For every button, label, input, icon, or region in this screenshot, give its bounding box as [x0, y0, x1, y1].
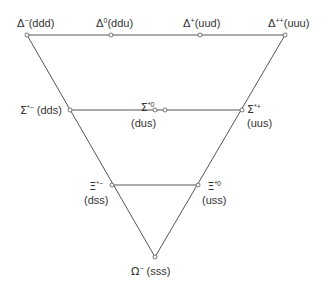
- label-delta-plusplus: Δ++(uuu): [268, 17, 309, 30]
- label-sigma-minus: Σ*− (dds): [20, 104, 62, 117]
- node-sigma-minus: [68, 108, 72, 112]
- edge-left: [27, 35, 155, 257]
- node-omega-minus: [153, 255, 157, 259]
- label-xi-minus: Ξ*− (dss): [84, 180, 108, 206]
- label-xi-zero: Ξ*0 (uss): [202, 180, 226, 206]
- node-xi-zero: [196, 183, 200, 187]
- label-delta-zero: Δ0(ddu): [96, 17, 133, 30]
- edge-right: [155, 35, 285, 257]
- node-delta-minus: [25, 33, 29, 37]
- label-omega-minus: Ω− (sss): [131, 265, 170, 278]
- node-sigma-plus: [240, 108, 244, 112]
- node-delta-zero: [109, 33, 113, 37]
- decuplet-triangle: [0, 0, 332, 291]
- node-sigma-zero-b: [163, 108, 167, 112]
- node-xi-minus: [110, 183, 114, 187]
- label-delta-minus: Δ−(ddd): [17, 17, 54, 30]
- label-delta-plus: Δ+(uud): [183, 17, 220, 30]
- label-sigma-zero: Σ*0 (dus): [131, 101, 156, 129]
- label-sigma-plus: Σ*+ (uus): [247, 103, 272, 129]
- node-delta-plusplus: [283, 33, 287, 37]
- node-delta-plus: [198, 33, 202, 37]
